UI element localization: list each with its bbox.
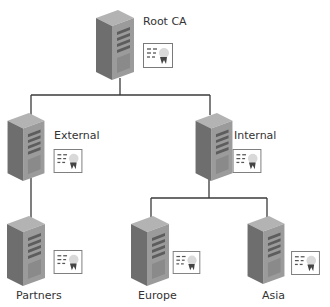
pki-hierarchy-diagram: Root CA External <box>0 0 330 307</box>
external-ca-server <box>7 113 45 181</box>
internal-ca-label: Internal <box>234 130 276 142</box>
asia-ca-server <box>247 216 285 284</box>
certificate-icon <box>291 251 320 275</box>
server-icon <box>7 216 45 286</box>
server-icon <box>131 216 169 286</box>
external-ca-certificate <box>53 149 83 173</box>
server-icon <box>247 216 285 284</box>
partners-ca-server <box>7 216 45 286</box>
internal-ca-server <box>195 113 233 181</box>
server-icon <box>195 113 233 181</box>
certificate-icon <box>143 43 173 68</box>
europe-ca-label: Europe <box>138 290 177 302</box>
europe-ca-certificate <box>172 251 201 274</box>
europe-ca-server <box>131 216 169 286</box>
server-icon <box>7 113 45 181</box>
partners-ca-label: Partners <box>16 290 62 302</box>
server-icon <box>96 10 134 80</box>
partners-ca-certificate <box>53 250 83 274</box>
root-ca-server <box>96 10 134 80</box>
certificate-icon <box>172 251 201 274</box>
asia-ca-label: Asia <box>262 290 285 302</box>
certificate-icon <box>53 250 83 274</box>
external-ca-label: External <box>54 130 100 142</box>
certificate-icon <box>53 149 83 173</box>
root-ca-label: Root CA <box>143 16 187 28</box>
root-ca-certificate <box>143 43 173 68</box>
certificate-icon <box>232 149 262 173</box>
internal-ca-certificate <box>232 149 262 173</box>
asia-ca-certificate <box>291 251 320 275</box>
